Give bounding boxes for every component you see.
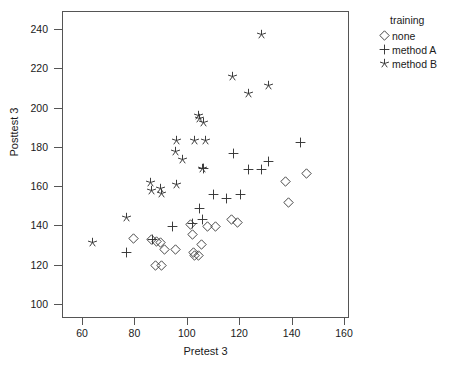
plus-icon	[378, 43, 390, 56]
y-axis-tick	[54, 186, 62, 187]
y-axis-tick-label: 240	[0, 23, 48, 35]
y-axis-label: Posttest 3	[8, 82, 20, 182]
legend-item-label: method A	[392, 44, 436, 56]
x-axis-tick	[239, 318, 240, 325]
y-axis-tick	[54, 29, 62, 30]
legend-item-none: none	[378, 29, 458, 42]
y-axis-tick-label: 120	[0, 259, 48, 271]
asterisk-star-icon	[378, 57, 390, 70]
legend-item-method-a: method A	[378, 43, 458, 56]
y-axis-tick	[54, 225, 62, 226]
plot-area	[62, 11, 349, 318]
legend-entries: nonemethod Amethod B	[378, 29, 458, 70]
y-axis-tick-label: 100	[0, 298, 48, 310]
x-axis-tick	[344, 318, 345, 325]
scatter-plot-figure: 1001201401601802002202406080100120140160…	[0, 0, 459, 372]
legend: training nonemethod Amethod B	[378, 14, 458, 71]
x-axis-tick	[292, 318, 293, 325]
x-axis-tick	[187, 318, 188, 325]
x-axis-tick-label: 100	[167, 327, 207, 339]
y-axis-tick	[54, 265, 62, 266]
legend-item-label: none	[392, 30, 415, 42]
x-axis-tick-label: 80	[114, 327, 154, 339]
x-axis-tick-label: 120	[219, 327, 259, 339]
x-axis-tick	[134, 318, 135, 325]
legend-item-method-b: method B	[378, 57, 458, 70]
x-axis-tick	[82, 318, 83, 325]
legend-title: training	[390, 14, 458, 26]
x-axis-label: Pretest 3	[62, 345, 349, 357]
x-axis-tick-label: 160	[324, 327, 364, 339]
legend-item-label: method B	[392, 58, 437, 70]
diamond-open-icon	[378, 29, 390, 42]
y-axis-tick-label: 140	[0, 219, 48, 231]
y-axis-tick	[54, 304, 62, 305]
x-axis-tick-label: 60	[62, 327, 102, 339]
y-axis-tick	[54, 147, 62, 148]
y-axis-tick	[54, 108, 62, 109]
y-axis-tick	[54, 68, 62, 69]
x-axis-tick-label: 140	[272, 327, 312, 339]
y-axis-tick-label: 220	[0, 62, 48, 74]
